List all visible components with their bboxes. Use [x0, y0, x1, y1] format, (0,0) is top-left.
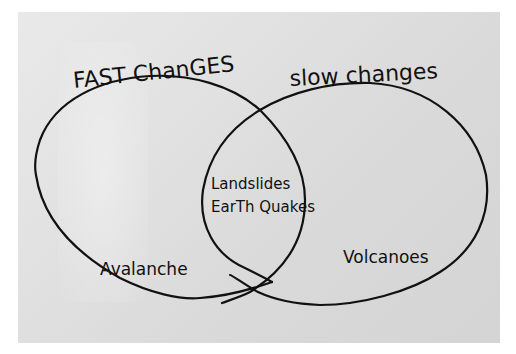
slow-changes-circle: [230, 83, 487, 305]
fast-changes-inner-curve: [202, 110, 272, 282]
fast-changes-title: FAST ChanGES: [72, 51, 235, 93]
earthquakes-label: EarTh Quakes: [211, 198, 315, 216]
landslides-label: Landslides: [211, 175, 290, 193]
venn-diagram: FAST ChanGES slow changes Avalanche Volc…: [0, 0, 516, 354]
volcanoes-label: Volcanoes: [343, 247, 429, 267]
avalanche-label: Avalanche: [100, 259, 188, 279]
slow-changes-title: slow changes: [289, 58, 439, 91]
